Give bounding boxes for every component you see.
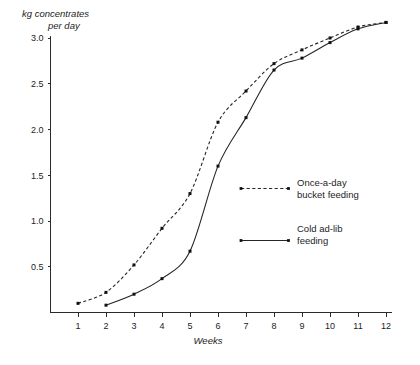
x-axis-ticks: 123456789101112 [75,313,391,331]
data-point-marker [189,192,192,195]
data-point-marker [273,62,276,65]
x-tick-label: 7 [243,321,248,331]
chart-legend: Once-a-day bucket feeding Cold ad-lib fe… [240,177,359,246]
x-tick-label: 11 [353,321,362,331]
x-tick-label: 5 [187,321,192,331]
data-point-marker [357,27,360,30]
legend-swatch-marker-start-dashed [240,187,243,190]
y-tick-label: 0.5 [31,262,44,272]
data-point-marker [329,41,332,44]
x-tick-label: 1 [75,321,80,331]
series-line-once-a-day [78,22,386,303]
x-axis-title: Weeks [194,335,223,346]
data-point-marker [133,263,136,266]
data-point-marker [245,116,248,119]
data-point-marker [385,21,388,24]
data-point-marker [77,302,80,305]
series-line-cold-ad-lib [106,22,386,305]
y-tick-label: 3.0 [31,33,44,43]
data-point-marker [245,90,248,93]
x-tick-label: 9 [299,321,304,331]
data-point-marker [301,57,304,60]
y-tick-label: 1.0 [31,216,44,226]
chart-page: kg concentrates per day 0.51.01.52.02.53… [0,0,420,365]
line-chart: kg concentrates per day 0.51.01.52.02.53… [0,0,420,365]
x-tick-label: 3 [131,321,136,331]
data-point-marker [105,304,108,307]
x-tick-label: 4 [159,321,164,331]
data-point-marker [329,37,332,40]
data-point-marker [273,69,276,72]
legend-label-cold-ad-lib-line-1: Cold ad-lib [297,223,342,234]
y-tick-label: 1.5 [31,171,44,181]
legend-swatch-marker-end-solid [287,239,290,242]
legend-swatch-marker-end-dashed [287,187,290,190]
data-point-marker [161,277,164,280]
legend-swatch-marker-start-solid [240,239,243,242]
legend-label-once-a-day-line-2: bucket feeding [297,189,359,200]
data-point-marker [189,250,192,253]
data-point-marker [105,291,108,294]
x-tick-label: 12 [381,321,391,331]
legend-label-once-a-day-line-1: Once-a-day [297,177,347,188]
x-tick-label: 8 [271,321,276,331]
x-tick-label: 6 [215,321,220,331]
y-tick-label: 2.5 [31,79,44,89]
series-group [77,21,388,307]
y-axis-ticks: 0.51.01.52.02.53.0 [31,33,51,272]
x-tick-label: 2 [103,321,108,331]
y-tick-label: 2.0 [31,125,44,135]
chart-title-line-1: kg concentrates [22,8,89,19]
data-point-marker [217,165,220,168]
chart-title-line-2: per day [47,20,81,31]
data-point-marker [301,48,304,51]
data-point-marker [217,121,220,124]
data-point-marker [133,293,136,296]
legend-label-cold-ad-lib-line-2: feeding [297,235,328,246]
x-tick-label: 10 [325,321,335,331]
data-point-marker [161,227,164,230]
